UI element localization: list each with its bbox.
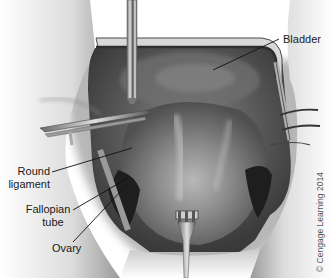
label-fallopian-tube-line2: tube xyxy=(24,216,72,229)
bladder xyxy=(120,52,260,108)
label-fallopian-tube-line1: Fallopian xyxy=(24,203,72,216)
label-bladder: Bladder xyxy=(283,33,321,46)
label-round-ligament: Round ligament xyxy=(8,165,50,191)
label-fallopian-tube: Fallopian tube xyxy=(24,203,72,229)
label-round-ligament-line2: ligament xyxy=(4,178,50,191)
copyright-notice: © Cengage Learning 2014 xyxy=(315,172,325,272)
label-round-ligament-line1: Round xyxy=(8,165,50,178)
vertical-forceps xyxy=(127,0,137,104)
label-ovary: Ovary xyxy=(52,242,81,255)
